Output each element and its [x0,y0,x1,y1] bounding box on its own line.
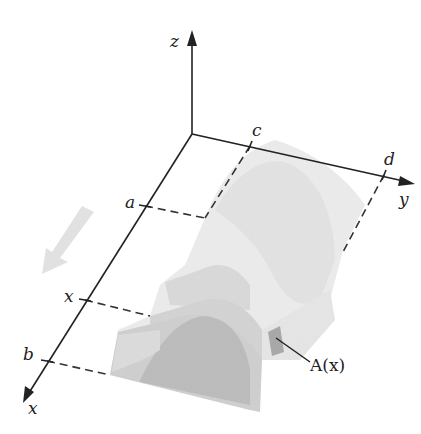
z-arrow-icon [187,30,197,46]
mark-b-label: b [23,346,34,363]
mark-c-label: c [252,122,262,139]
diagram-svg [0,0,421,434]
guide-x [85,300,150,316]
tick-x [79,299,91,301]
cross-section-label: A(x) [310,357,345,374]
y-axis-label: y [399,191,409,208]
guide-b [47,361,110,375]
tick-b [41,360,53,362]
tick-d [382,170,386,180]
mark-d-label: d [384,151,395,168]
z-axis-label: z [170,33,179,50]
mark-a-label: a [125,194,135,211]
y-arrow-icon [398,176,415,186]
tick-a [139,205,151,207]
x-axis-label: x [28,400,38,417]
guide-a [145,206,205,218]
mark-x-label: x [64,288,74,305]
solid-slicing-diagram: z y x a x b c d A(x) [0,0,421,434]
direction-arrow-icon [42,206,94,274]
